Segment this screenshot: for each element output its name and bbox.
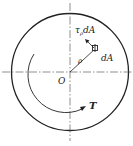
- torsion-diagram: τρdA dA ρ O T: [0, 0, 133, 146]
- torque-label: T: [89, 100, 98, 111]
- area-element-icon: [93, 44, 98, 52]
- shear-force-label: τρdA: [75, 25, 96, 37]
- radius-label: ρ: [77, 57, 83, 65]
- radius-line: [70, 49, 95, 72]
- area-element-label: dA: [101, 53, 114, 63]
- center-label: O: [58, 76, 66, 86]
- shear-force-arrow-icon: [85, 39, 94, 48]
